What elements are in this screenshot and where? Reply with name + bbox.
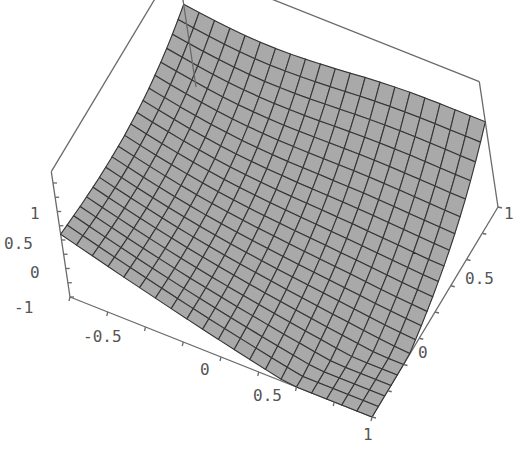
y-tick-label: 1 xyxy=(504,204,514,223)
box-edge xyxy=(482,233,486,234)
z-tick-label: 0 xyxy=(30,263,40,282)
z-tick-label: 1 xyxy=(30,204,40,223)
box-edge xyxy=(258,372,259,376)
z-tick-label: 0.5 xyxy=(4,234,33,253)
box-edge xyxy=(498,207,502,208)
box-edge xyxy=(145,327,146,331)
box-edge xyxy=(467,260,471,261)
x-tick-label: 0 xyxy=(200,360,210,379)
box-edge xyxy=(182,342,183,346)
box-edge xyxy=(435,312,439,313)
x-tick-label: 1 xyxy=(363,425,373,444)
box-edge xyxy=(333,402,334,406)
y-tick-label: 0.5 xyxy=(465,269,494,288)
x-tick-label: -0.5 xyxy=(83,327,122,346)
box-edge xyxy=(388,391,392,392)
box-edge xyxy=(479,82,498,207)
z-axis-tick-labels: 10.50-1 xyxy=(4,204,40,317)
box-edge xyxy=(419,338,423,339)
surface-plot-3d: 10.50-1 -0.500.51 00.51 xyxy=(0,0,527,454)
box-edge xyxy=(404,365,408,366)
box-edge xyxy=(371,417,372,421)
box-edge xyxy=(451,286,455,287)
x-tick-label: 0.5 xyxy=(253,386,282,405)
y-tick-label: 0 xyxy=(418,343,428,362)
box-edge xyxy=(296,387,297,391)
box-edge xyxy=(372,417,376,418)
box-edge xyxy=(107,312,108,316)
box-edge xyxy=(220,357,221,361)
z-tick-label: -1 xyxy=(14,298,33,317)
box-edge xyxy=(69,297,70,301)
